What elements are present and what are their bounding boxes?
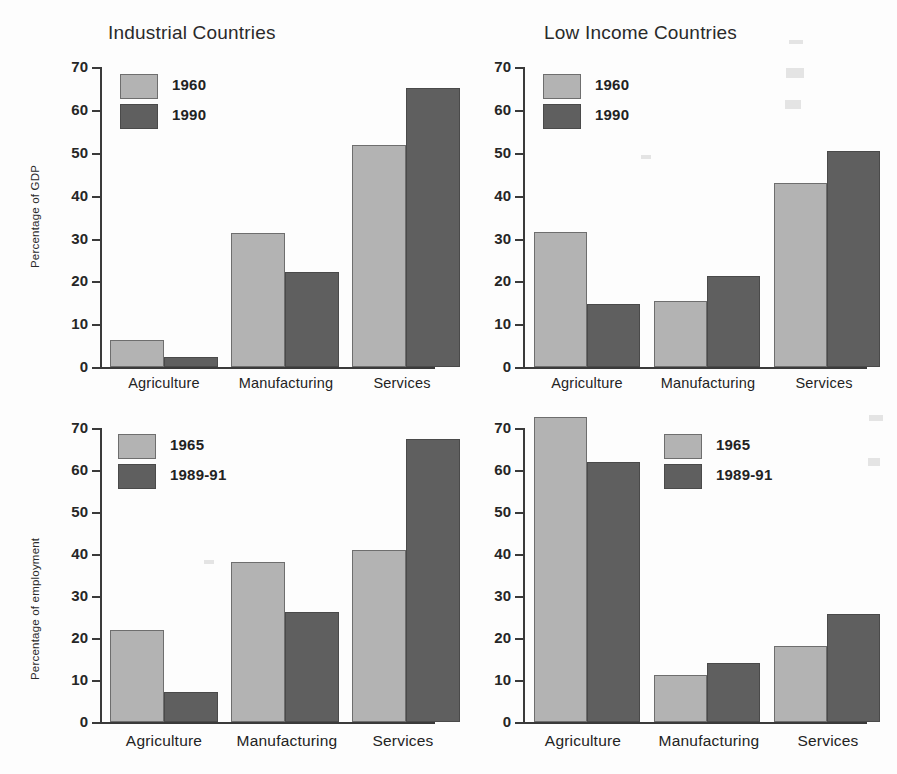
bar-agriculture-1965-bottom-right [534,417,587,722]
y-ticklabel-20-top-right: 20 [473,272,511,289]
y-tick-70-bottom-right [515,428,524,430]
y-ticklabel-50-bottom-right: 50 [473,503,511,520]
y-ticklabel-0-bottom-right: 0 [473,713,511,730]
legend-swatch-1960-icon [120,74,158,99]
legend-label-1990: 1990 [172,106,206,123]
y-tick-0-bottom-left [92,722,101,724]
bar-manufacturing-1990-top-left [285,272,339,367]
y-tick-50-bottom-right [515,512,524,514]
y-ticklabel-40-top-left: 40 [50,187,88,204]
y-tick-60-bottom-right [515,470,524,472]
legend-label-1960: 1960 [172,76,206,93]
y-ticklabel-60-bottom-right: 60 [473,461,511,478]
y-tick-10-bottom-right [515,680,524,682]
bar-agriculture-1989-91-bottom-left [164,692,218,722]
x-category-services-top-left: Services [341,375,463,391]
legend-label-1989-91: 1989-91 [716,466,772,483]
x-axis-line-top-left [100,367,435,369]
panel-title-top-left: Industrial Countries [108,22,276,44]
y-ticklabel-70-top-right: 70 [473,58,511,75]
x-axis-line-bottom-left [100,722,435,724]
panel-title-top-right: Low Income Countries [544,22,737,44]
y-tick-0-bottom-right [515,722,524,724]
y-ticklabel-0-top-left: 0 [50,358,88,375]
y-tick-40-top-left [92,196,101,198]
y-ticklabel-30-top-left: 30 [50,230,88,247]
x-axis-line-bottom-right [523,722,867,724]
bar-services-1989-91-bottom-right [827,614,880,722]
x-category-agriculture-bottom-left: Agriculture [100,732,228,750]
y-tick-30-top-right [515,239,524,241]
y-tick-60-top-right [515,110,524,112]
y-tick-50-top-right [515,153,524,155]
y-tick-40-bottom-left [92,554,101,556]
y-ticklabel-20-top-left: 20 [50,272,88,289]
y-tick-40-top-right [515,196,524,198]
bar-services-1965-bottom-left [352,550,406,722]
bar-services-1960-top-left [352,145,406,367]
bar-services-1990-top-right [827,151,880,367]
scan-artifact-7 [868,458,880,466]
legend-swatch-1989-91-icon [664,464,702,489]
bar-manufacturing-1960-top-right [654,301,707,367]
y-ticklabel-10-top-right: 10 [473,315,511,332]
y-ticklabel-60-top-right: 60 [473,101,511,118]
y-ticklabel-0-bottom-left: 0 [50,713,88,730]
scan-artifact-1 [789,40,803,44]
y-ticklabel-30-top-right: 30 [473,230,511,247]
y-ticklabel-20-bottom-right: 20 [473,629,511,646]
y-tick-50-top-left [92,153,101,155]
legend-swatch-1965-icon [118,434,156,459]
y-tick-60-top-left [92,110,101,112]
legend-swatch-1960-icon [543,74,581,99]
scan-artifact-2 [786,68,804,78]
y-ticklabel-60-top-left: 60 [50,101,88,118]
y-ticklabel-50-bottom-left: 50 [50,503,88,520]
legend-swatch-1990-icon [543,104,581,129]
y-axis-label-top-left: Percentage of GDP [29,165,41,268]
legend-label-1989-91: 1989-91 [170,466,226,483]
y-tick-40-bottom-right [515,554,524,556]
x-category-agriculture-top-left: Agriculture [104,375,224,391]
x-category-services-top-right: Services [763,375,885,391]
y-ticklabel-50-top-right: 50 [473,144,511,161]
y-axis-label-bottom-left: Percentage of employment [29,538,41,680]
y-ticklabel-60-bottom-left: 60 [50,461,88,478]
scan-artifact-6 [869,415,883,421]
panel-industrial-countries-employment: Percentage of employment 70 60 50 40 30 … [0,390,449,774]
bar-manufacturing-1990-top-right [707,276,760,367]
bar-agriculture-1989-91-bottom-right [587,462,640,722]
y-ticklabel-0-top-right: 0 [473,358,511,375]
y-tick-70-bottom-left [92,428,101,430]
y-ticklabel-40-bottom-left: 40 [50,545,88,562]
y-ticklabel-10-top-left: 10 [50,315,88,332]
bar-manufacturing-1989-91-bottom-left [285,612,339,722]
legend-swatch-1965-icon [664,434,702,459]
y-tick-60-bottom-left [92,470,101,472]
bar-agriculture-1960-top-right [534,232,587,367]
legend-label-1965: 1965 [716,436,750,453]
bar-services-1965-bottom-right [774,646,827,722]
x-category-agriculture-top-right: Agriculture [527,375,647,391]
y-tick-0-top-right [515,367,524,369]
y-ticklabel-30-bottom-left: 30 [50,587,88,604]
y-tick-0-top-left [92,367,101,369]
bar-agriculture-1960-top-left [110,340,164,367]
x-category-manufacturing-bottom-left: Manufacturing [219,732,355,750]
y-ticklabel-30-bottom-right: 30 [473,587,511,604]
y-ticklabel-70-bottom-right: 70 [473,419,511,436]
legend-swatch-1990-icon [120,104,158,129]
x-category-manufacturing-top-right: Manufacturing [644,375,772,391]
y-tick-30-top-left [92,239,101,241]
bar-manufacturing-1965-bottom-left [231,562,285,722]
y-axis-line-bottom-left [100,428,102,722]
y-axis-line-bottom-right [523,428,525,722]
x-category-agriculture-bottom-right: Agriculture [519,732,647,750]
y-tick-10-bottom-left [92,680,101,682]
panel-low-income-countries-employment: 70 60 50 40 30 20 10 0 Agriculture Manuf… [449,390,897,774]
y-tick-70-top-right [515,67,524,69]
legend-label-1960: 1960 [595,76,629,93]
y-ticklabel-20-bottom-left: 20 [50,629,88,646]
x-category-manufacturing-bottom-right: Manufacturing [641,732,777,750]
bar-manufacturing-1960-top-left [231,233,285,367]
